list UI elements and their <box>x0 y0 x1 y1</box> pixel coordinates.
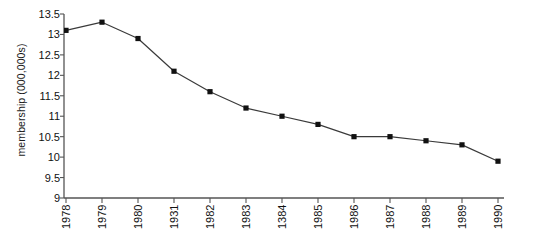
x-axis-tick-label-text: 1978 <box>60 215 72 229</box>
x-axis-tick-label: 1990 <box>491 200 505 228</box>
x-axis-tick-label-text: 1988 <box>420 215 432 229</box>
x-axis-tick-label: 1986 <box>347 200 361 228</box>
x-axis-tick-label-text: 1990 <box>492 215 504 229</box>
series-line <box>66 22 498 161</box>
data-point-marker <box>207 89 212 94</box>
x-axis-tick-label-text: 1384 <box>276 215 288 229</box>
data-point-marker <box>423 138 428 143</box>
x-axis-tick-label-text: 1987 <box>384 215 396 229</box>
data-point-marker <box>171 69 176 74</box>
data-point-marker <box>135 36 140 41</box>
x-axis-tick-label: 1384 <box>275 200 289 228</box>
x-axis-tick-label-text: 1989 <box>456 215 468 229</box>
data-point-marker <box>279 114 284 119</box>
x-axis-tick-label: 1931 <box>167 200 181 228</box>
x-axis-tick-label-text: 1931 <box>168 215 180 229</box>
x-axis-tick-label-text: 1983 <box>240 215 252 229</box>
data-point-marker <box>64 28 69 33</box>
x-axis-tick-label-text: 1985 <box>312 215 324 229</box>
x-axis-tick-label-text: 1979 <box>96 215 108 229</box>
x-axis-tick-label-text: 1986 <box>348 215 360 229</box>
data-series-membership <box>64 14 504 198</box>
x-axis-tick-label: 1983 <box>239 200 253 228</box>
data-point-marker <box>459 142 464 147</box>
x-axis-tick-label: 1982 <box>203 200 217 228</box>
x-axis-tick-label: 1979 <box>95 200 109 228</box>
data-point-marker <box>387 134 392 139</box>
data-point-marker <box>315 122 320 127</box>
line-chart-figure: membership (000,000s) 13.51312.51211.511… <box>0 0 534 249</box>
plot-area <box>64 14 504 198</box>
x-axis-tick-labels: 1978197919801931198219831384198519861987… <box>0 198 534 249</box>
x-axis-tick-label-text: 1980 <box>132 215 144 229</box>
x-axis-tick-label: 1988 <box>419 200 433 228</box>
x-axis-tick-label-text: 1982 <box>204 215 216 229</box>
x-axis-tick-label: 1989 <box>455 200 469 228</box>
data-point-marker <box>99 20 104 25</box>
x-axis-tick-label: 1978 <box>59 200 73 228</box>
data-point-marker <box>495 159 500 164</box>
data-point-marker <box>351 134 356 139</box>
x-axis-tick-label: 1980 <box>131 200 145 228</box>
x-axis-tick-label: 1987 <box>383 200 397 228</box>
x-axis-tick-label: 1985 <box>311 200 325 228</box>
data-point-marker <box>243 105 248 110</box>
